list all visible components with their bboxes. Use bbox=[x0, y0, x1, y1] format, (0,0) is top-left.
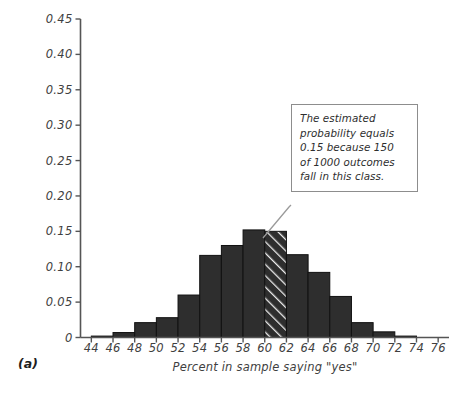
x-axis-tick-label: 58 bbox=[231, 341, 255, 355]
x-axis-tick-label: 46 bbox=[101, 341, 125, 355]
histogram-bars bbox=[91, 230, 416, 338]
x-axis-tick-label: 62 bbox=[274, 341, 298, 355]
x-axis-tick-label: 52 bbox=[166, 341, 190, 355]
x-axis-tick-label: 74 bbox=[404, 341, 428, 355]
y-axis-tick-label: 0.15 bbox=[27, 224, 73, 238]
histogram-bar bbox=[330, 296, 352, 337]
annotation-line-5: fall in this class. bbox=[300, 169, 410, 184]
histogram-bar bbox=[178, 295, 200, 337]
histogram-bar bbox=[373, 332, 395, 338]
y-axis-tick-label: 0.30 bbox=[27, 118, 73, 132]
histogram-bar bbox=[351, 323, 373, 338]
histogram-bar-highlighted bbox=[265, 231, 287, 337]
panel-label: (a) bbox=[18, 356, 38, 371]
y-axis-tick-label: 0.40 bbox=[27, 47, 73, 61]
x-axis-tick-label: 66 bbox=[318, 341, 342, 355]
annotation-callout: The estimated probability equals 0.15 be… bbox=[291, 104, 418, 192]
histogram-bar bbox=[243, 230, 265, 338]
y-axis-tick-label: 0.20 bbox=[27, 189, 73, 203]
annotation-line-4: of 1000 outcomes bbox=[300, 155, 410, 170]
histogram-bar bbox=[200, 255, 222, 337]
x-axis-tick-label: 54 bbox=[188, 341, 212, 355]
x-axis-tick-label: 70 bbox=[361, 341, 385, 355]
y-axis-tick-label: 0.35 bbox=[27, 83, 73, 97]
y-axis-tick-label: 0 bbox=[27, 331, 73, 345]
histogram-figure: 00.050.100.150.200.250.300.350.400.45 44… bbox=[0, 0, 470, 399]
x-axis-tick-label: 72 bbox=[383, 341, 407, 355]
x-axis-tick-label: 48 bbox=[123, 341, 147, 355]
x-axis-tick-label: 50 bbox=[144, 341, 168, 355]
x-axis-label: Percent in sample saying "yes" bbox=[80, 360, 450, 374]
histogram-bar bbox=[156, 318, 178, 338]
y-axis-tick-label: 0.10 bbox=[27, 260, 73, 274]
annotation-line-2: probability equals bbox=[300, 126, 410, 141]
annotation-line-1: The estimated bbox=[300, 111, 410, 126]
y-axis-tick-label: 0.45 bbox=[27, 12, 73, 26]
x-axis-tick-label: 76 bbox=[426, 341, 450, 355]
x-axis-tick-label: 60 bbox=[253, 341, 277, 355]
annotation-line-3: 0.15 because 150 bbox=[300, 140, 410, 155]
x-axis-tick-label: 44 bbox=[79, 341, 103, 355]
histogram-bar bbox=[135, 323, 157, 338]
x-axis-tick-label: 68 bbox=[339, 341, 363, 355]
y-axis-tick-label: 0.05 bbox=[27, 295, 73, 309]
x-axis-tick-label: 56 bbox=[209, 341, 233, 355]
x-axis-tick-label: 64 bbox=[296, 341, 320, 355]
histogram-bar bbox=[286, 255, 308, 338]
histogram-bar bbox=[221, 245, 243, 337]
y-axis-tick-label: 0.25 bbox=[27, 154, 73, 168]
histogram-bar bbox=[308, 272, 330, 337]
